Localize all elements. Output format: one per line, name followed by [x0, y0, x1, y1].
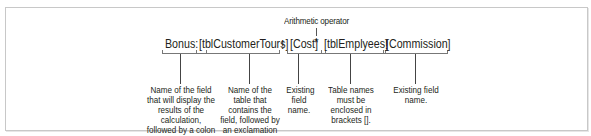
formula-token-commission: [Commission]: [386, 36, 451, 52]
formula-separator: !: [281, 37, 284, 53]
formula-token-table2: [tblEmplyees]: [324, 36, 388, 52]
connector-cost: [298, 54, 299, 84]
annotation-table1: Name of the table that contains the fiel…: [219, 85, 280, 136]
annotation-cost: Existing field name.: [286, 85, 312, 115]
operator-label: Arithmetic operator: [284, 15, 349, 26]
annotation-table2: Table names must be enclosed in brackets…: [320, 85, 383, 125]
formula-token-table1: [tblCustomerTours]: [199, 36, 288, 52]
formula-token-bonus: Bonus:: [165, 36, 198, 52]
formula-operator: *: [314, 35, 319, 51]
connector-commission: [415, 54, 416, 84]
formula: Bonus: [tblCustomerTours] ! [Cost] * [tb…: [0, 36, 591, 54]
annotation-commission: Existing field name.: [393, 85, 439, 105]
connector-bonus: [180, 54, 181, 84]
connector-table1: [249, 54, 250, 84]
connector-table2: [350, 54, 351, 84]
annotation-bonus: Name of the field that will display the …: [146, 85, 216, 136]
